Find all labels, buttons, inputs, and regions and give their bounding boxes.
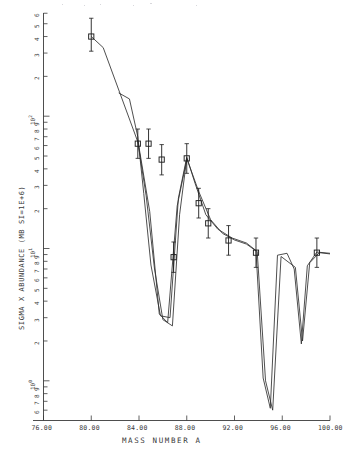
y-tick-label-minor: 2	[33, 341, 40, 345]
y-tick-label-minor: 6	[33, 411, 40, 415]
data-markers-group	[89, 34, 320, 260]
x-tick-label: 92.00	[223, 424, 244, 432]
y-tick-label-minor: 7	[33, 269, 40, 273]
x-tick-label: 96.00	[270, 424, 291, 432]
y-tick-label-minor: 6	[33, 14, 40, 18]
y-tick-label-minor: 8	[33, 394, 40, 398]
axes-group	[33, 13, 330, 421]
y-tick-label-minor: 5	[33, 24, 40, 28]
y-tick-label-minor: 5	[33, 289, 40, 293]
y-tick-label-decade: 101	[28, 247, 36, 257]
y-axis-ticks	[44, 13, 50, 410]
x-tick-label: 76.00	[32, 424, 53, 432]
y-tick-label-decade: 102	[28, 115, 36, 125]
y-tick-label-minor: 6	[33, 278, 40, 282]
y-tick-label-minor: 4	[33, 169, 40, 173]
y-tick-label-minor: 3	[33, 53, 40, 57]
error-bars-group	[89, 18, 319, 272]
y-tick-label-decade: 100	[28, 380, 36, 390]
x-tick-label: 100.00	[318, 424, 343, 432]
y-tick-label-minor: 4	[33, 302, 40, 306]
y-tick-label-minor: 2	[33, 77, 40, 81]
x-tick-label: 84.00	[127, 424, 148, 432]
y-tick-label-minor: 5	[33, 156, 40, 160]
y-tick-label-minor: 7	[33, 402, 40, 406]
y-tick-label-minor: 4	[33, 37, 40, 41]
y-tick-label-minor: 7	[33, 137, 40, 141]
x-axis-ticks	[44, 416, 331, 421]
y-tick-label-minor: 3	[33, 186, 40, 190]
y-tick-label-minor: 8	[33, 129, 40, 133]
y-tick-label-minor: 6	[33, 146, 40, 150]
x-tick-label: 80.00	[79, 424, 100, 432]
x-axis-title: MASS NUMBER A	[122, 436, 202, 445]
y-tick-label-minor: 8	[33, 262, 40, 266]
x-tick-label: 88.00	[175, 424, 196, 432]
y-axis-title: SIGMA X ABUNDANCE (MB SI=1E+6)	[18, 186, 26, 330]
y-tick-label-minor: 3	[33, 318, 40, 322]
y-tick-label-minor: 2	[33, 209, 40, 213]
